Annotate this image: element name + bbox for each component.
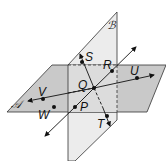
label-s: S — [85, 51, 93, 63]
label-q: Q — [78, 79, 87, 91]
plane-a-label: 𝒜 — [11, 99, 21, 110]
label-v: V — [38, 86, 46, 98]
point-t — [105, 114, 109, 118]
label-t: T — [97, 118, 104, 130]
geometry-diagram: ℬ 𝒜 S R U Q V W P T — [0, 0, 166, 161]
label-p: P — [80, 101, 88, 113]
plane-b-label: ℬ — [107, 20, 116, 31]
point-w — [52, 105, 56, 109]
plane-b-lower — [68, 112, 117, 161]
label-r: R — [103, 59, 112, 71]
point-p — [73, 105, 77, 109]
point-s — [80, 60, 84, 64]
label-w: W — [38, 109, 49, 121]
point-q — [92, 86, 96, 90]
label-u: U — [130, 65, 139, 77]
